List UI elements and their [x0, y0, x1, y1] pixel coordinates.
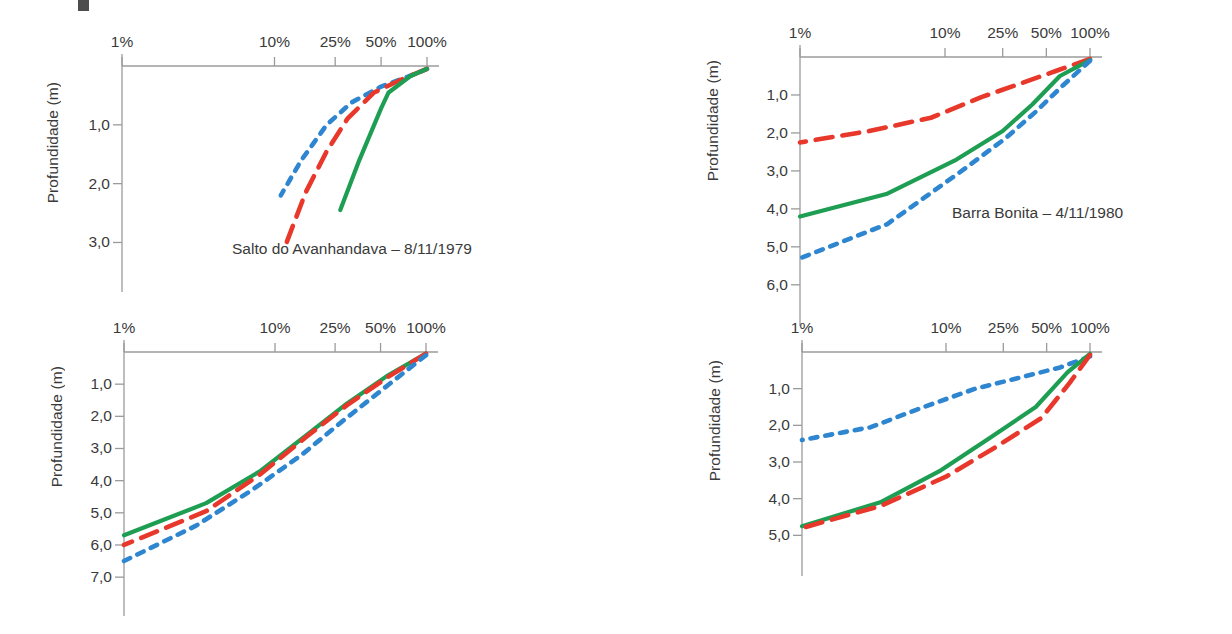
y-tick-label: 3,0: [70, 233, 110, 251]
y-tick-label: 4,0: [748, 200, 788, 218]
y-tick-label: 2,0: [748, 124, 788, 142]
y-tick-label: 3,0: [72, 439, 112, 457]
x-tick-label: 1%: [113, 319, 135, 337]
x-tick-label: 10%: [930, 319, 961, 337]
x-tick-label: 50%: [366, 33, 397, 51]
x-tick-label: 100%: [1070, 319, 1110, 337]
chart-panel-barra-bonita: [632, 0, 1232, 310]
y-tick-label: 5,0: [748, 238, 788, 256]
y-tick-label: 2,0: [750, 416, 790, 434]
x-tick-label: 25%: [320, 319, 351, 337]
y-tick-label: 6,0: [72, 536, 112, 554]
y-tick-label: 7,0: [72, 568, 112, 586]
x-tick-label: 50%: [1031, 319, 1062, 337]
y-tick-label: 1,0: [70, 116, 110, 134]
x-tick-label: 50%: [1031, 24, 1062, 42]
y-tick-label: 4,0: [72, 472, 112, 490]
chart-caption: Barra Bonita – 4/11/1980: [952, 204, 1123, 222]
y-tick-label: 5,0: [750, 526, 790, 544]
y-tick-label: 3,0: [748, 162, 788, 180]
y-tick-label: 5,0: [72, 504, 112, 522]
x-tick-label: 100%: [406, 319, 446, 337]
x-tick-label: 50%: [365, 319, 396, 337]
y-tick-label: 1,0: [72, 375, 112, 393]
y-axis-title: Profundidade (m): [48, 366, 66, 487]
y-axis-title: Profundidade (m): [706, 360, 724, 481]
x-tick-label: 1%: [791, 319, 813, 337]
x-tick-label: 1%: [789, 24, 811, 42]
y-tick-label: 6,0: [748, 276, 788, 294]
y-axis-title: Profundidade (m): [44, 82, 62, 203]
y-axis-title: Profundidade (m): [704, 60, 722, 181]
x-tick-label: 100%: [1070, 24, 1110, 42]
x-tick-label: 10%: [929, 24, 960, 42]
x-tick-label: 10%: [259, 33, 290, 51]
y-tick-label: 2,0: [72, 407, 112, 425]
y-tick-label: 2,0: [70, 175, 110, 193]
y-tick-label: 4,0: [750, 490, 790, 508]
y-tick-label: 1,0: [748, 86, 788, 104]
chart-panel-salto-do-avanhandava: [0, 0, 600, 310]
x-tick-label: 10%: [259, 319, 290, 337]
x-tick-label: 1%: [111, 33, 133, 51]
x-tick-label: 25%: [987, 24, 1018, 42]
x-tick-label: 25%: [988, 319, 1019, 337]
x-tick-label: 25%: [320, 33, 351, 51]
y-tick-label: 3,0: [750, 453, 790, 471]
chart-caption: Salto do Avanhandava – 8/11/1979: [232, 240, 472, 258]
y-tick-label: 1,0: [750, 380, 790, 398]
x-tick-label: 100%: [407, 33, 447, 51]
